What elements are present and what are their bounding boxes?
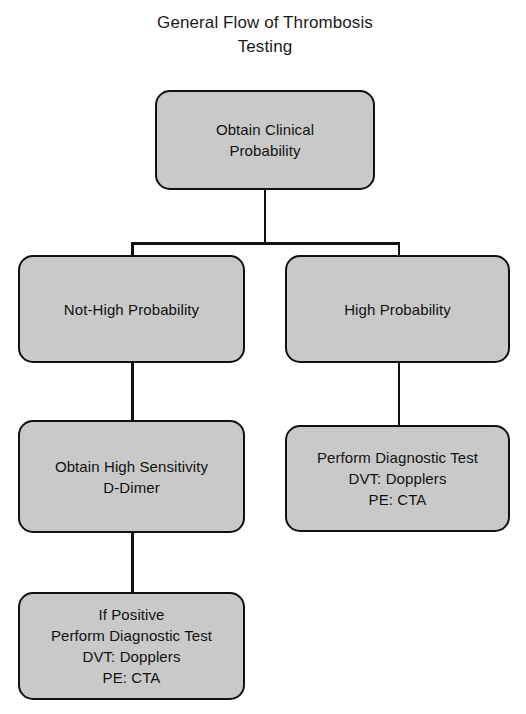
node-perform-diagnostic-test[interactable]: Perform Diagnostic Test DVT: Dopplers PE… (285, 425, 510, 532)
node-obtain-high-sensitivity-d-dimer[interactable]: Obtain High Sensitivity D-Dimer (18, 420, 245, 533)
node-label: Not-High Probability (20, 299, 243, 320)
connector-clinical-to-split (264, 188, 267, 245)
node-not-high-probability[interactable]: Not-High Probability (18, 255, 245, 363)
node-if-positive-perform-diagnostic-test[interactable]: If Positive Perform Diagnostic Test DVT:… (18, 592, 245, 700)
page-title: General Flow of Thrombosis Testing (95, 11, 435, 59)
node-label: Obtain Clinical Probability (157, 119, 373, 161)
node-label: High Probability (287, 299, 508, 320)
node-obtain-clinical-probability[interactable]: Obtain Clinical Probability (155, 90, 375, 190)
connector-split-bar (131, 242, 400, 245)
node-label: If Positive Perform Diagnostic Test DVT:… (20, 604, 243, 688)
node-label: Obtain High Sensitivity D-Dimer (20, 456, 243, 498)
node-high-probability[interactable]: High Probability (285, 255, 510, 363)
connector-not-high-to-d-dimer (131, 361, 134, 422)
node-label: Perform Diagnostic Test DVT: Dopplers PE… (287, 447, 508, 510)
flowchart-canvas: General Flow of Thrombosis Testing Obtai… (0, 0, 526, 714)
connector-d-dimer-to-if-positive (131, 531, 134, 594)
connector-high-to-diagnostic (398, 361, 401, 427)
